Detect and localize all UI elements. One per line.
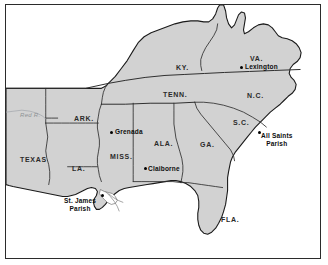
place-dot-all-saints-parish bbox=[258, 131, 261, 134]
place-dot-lexington bbox=[240, 66, 243, 69]
map-figure: KY. VA. TENN. N.C. ARK. S.C. MISS. ALA. … bbox=[0, 0, 328, 265]
place-dot-grenada bbox=[110, 131, 113, 134]
place-dot-claiborne bbox=[144, 167, 147, 170]
map-frame-border: KY. VA. TENN. N.C. ARK. S.C. MISS. ALA. … bbox=[5, 4, 321, 259]
boundary-ky-tn-va-nc bbox=[6, 83, 108, 88]
map-graphic bbox=[6, 5, 320, 258]
place-dot-st-james-parish bbox=[101, 194, 104, 197]
